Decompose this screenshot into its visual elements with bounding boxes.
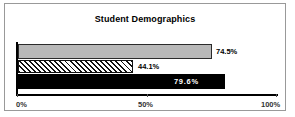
chart-frame: Student Demographics 74.5% 44.1% 79.6% 0… — [4, 3, 286, 111]
x-axis-label-50: 50% — [138, 101, 153, 109]
x-axis-label-100: 100% — [261, 101, 280, 109]
x-axis-label-0: 0% — [16, 101, 27, 109]
bar-label-series-3: 79.6% — [174, 78, 199, 86]
plot-area: 74.5% 44.1% 79.6% 0% 50% 100% — [16, 42, 278, 94]
x-axis-tick-0 — [17, 94, 18, 97]
bar-series-2[interactable] — [18, 60, 133, 73]
bar-label-series-2: 44.1% — [138, 63, 159, 71]
chart-title: Student Demographics — [5, 14, 285, 24]
bar-label-series-1: 74.5% — [216, 48, 237, 56]
bar-series-1[interactable] — [18, 44, 212, 59]
x-axis-tick-100 — [276, 94, 277, 97]
x-axis-tick-50 — [147, 94, 148, 97]
